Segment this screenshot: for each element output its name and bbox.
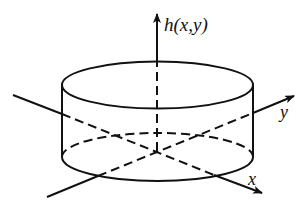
x-axis-label: x — [248, 170, 256, 188]
x-axis-hidden — [62, 114, 214, 175]
y-axis-negative-outer — [47, 176, 98, 197]
cylinder-bottom-front-arc — [62, 157, 253, 181]
diagram-canvas: h(x,y) y x — [0, 0, 301, 204]
y-axis-hidden — [98, 113, 253, 176]
x-axis-negative-outer — [13, 95, 62, 114]
h-axis-label: h(x,y) — [164, 15, 208, 34]
y-axis-label: y — [280, 103, 288, 121]
